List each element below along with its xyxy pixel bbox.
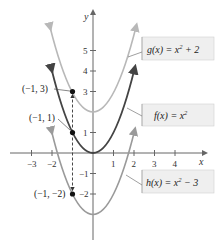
y-tick-label: 5 (83, 46, 88, 56)
g-label-text: g(x) = x (147, 44, 180, 56)
y-axis-label: y (83, 11, 89, 22)
x-tick-label: 2 (132, 159, 137, 169)
label-box-f: f(x) = x2 (127, 104, 214, 126)
point-neg1-neg2 (70, 191, 75, 196)
x-tick-label: 3 (152, 159, 157, 169)
point-label-neg1-neg2: (−1, −2) (34, 189, 65, 200)
g-label-tail: + 2 (183, 44, 200, 55)
y-tick-label: 3 (83, 87, 88, 97)
svg-text:h(x) = x2 − 3: h(x) = x2 − 3 (146, 176, 198, 189)
y-tick-label: −2 (79, 189, 89, 199)
point-label-neg1-3: (−1, 3) (22, 84, 48, 95)
label-box-h: h(x) = x2 − 3 (126, 170, 214, 193)
point-label-neg1-1: (−1, 1) (29, 113, 55, 124)
x-tick-label: −2 (47, 159, 57, 169)
svg-text:g(x) = x2 + 2: g(x) = x2 + 2 (147, 43, 199, 56)
x-tick-label: 1 (111, 159, 116, 169)
y-tick-label: 4 (83, 66, 88, 76)
x-tick-labels: −3 −2 1 2 3 4 (27, 159, 178, 169)
function-graph: −3 −2 1 2 3 4 5 4 3 1 −1 −2 y x (−1, 3) (0, 0, 217, 247)
y-tick-label: 1 (83, 128, 88, 138)
point-neg1-3 (70, 89, 75, 94)
y-tick-labels: 5 4 3 1 −1 −2 (79, 46, 89, 200)
h-label-text: h(x) = x (146, 177, 179, 189)
y-tick-label: −1 (79, 169, 89, 179)
f-label-text: f(x) = x (154, 110, 185, 122)
point-neg1-1 (70, 130, 75, 135)
x-axis-label: x (198, 156, 204, 167)
x-tick-label: 4 (173, 159, 178, 169)
svg-text:f(x) = x2: f(x) = x2 (154, 109, 188, 122)
x-tick-label: −3 (27, 159, 37, 169)
label-box-g: g(x) = x2 + 2 (128, 37, 214, 60)
h-label-tail: − 3 (182, 177, 199, 188)
